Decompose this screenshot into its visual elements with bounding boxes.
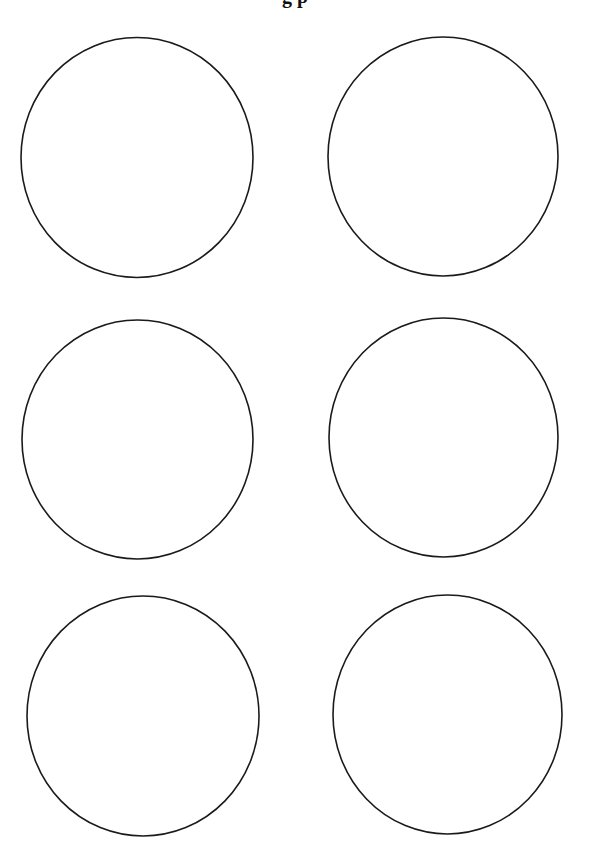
blank-circle-3	[22, 320, 253, 559]
blank-circle-5	[27, 596, 259, 836]
circle-template-sheet	[0, 0, 590, 858]
blank-circle-2	[328, 37, 558, 276]
blank-circle-6	[333, 595, 562, 834]
blank-circle-1	[21, 38, 253, 278]
blank-circle-4	[329, 318, 558, 557]
